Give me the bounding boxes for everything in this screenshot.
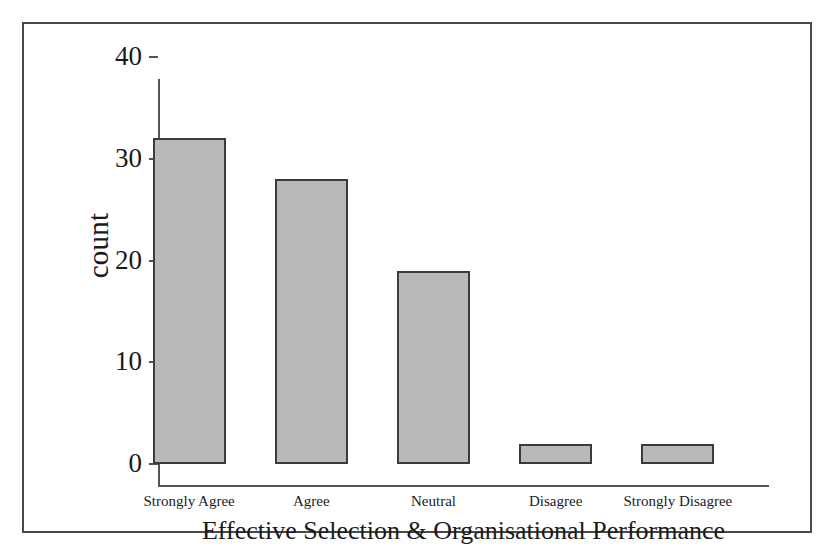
x-axis-line bbox=[158, 485, 769, 487]
plot-area bbox=[136, 57, 747, 464]
bar bbox=[519, 444, 592, 464]
bar bbox=[641, 444, 714, 464]
figure-frame: count 010203040 Strongly AgreeAgreeNeutr… bbox=[22, 22, 812, 533]
bar bbox=[153, 138, 226, 464]
bar bbox=[275, 179, 348, 464]
x-axis-tick-label: Strongly Disagree bbox=[578, 494, 778, 509]
bar bbox=[397, 271, 470, 464]
x-axis-title: Effective Selection & Organisational Per… bbox=[158, 518, 769, 544]
